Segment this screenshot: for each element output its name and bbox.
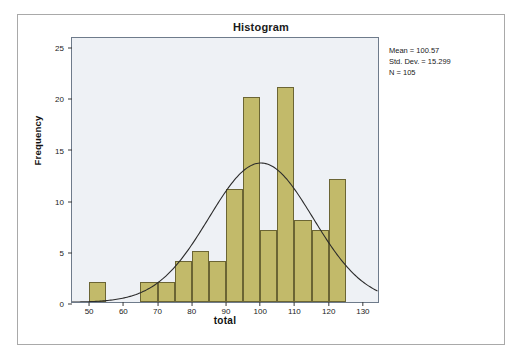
x-axis-tick-label: 120 [322,302,335,316]
stat-stddev: Std. Dev. = 15.299 [389,57,451,68]
y-axis-tick-label: 0 [60,300,72,309]
x-axis-tick-label: 80 [187,302,196,316]
chart-window: Histogram Frequency 0510152025 506070809… [17,14,505,345]
y-axis-tick-label: 15 [55,146,72,155]
histogram-bar [209,261,226,302]
x-axis-tick-label: 110 [288,302,301,316]
x-axis-tick-label: 130 [356,302,369,316]
histogram-bar [226,189,243,302]
histogram-bar [140,282,157,302]
histogram-bar [158,282,175,302]
y-axis-tick-label: 5 [60,248,72,257]
plot-area: 0510152025 5060708090100110120130 [71,37,379,303]
plot-inner: 0510152025 5060708090100110120130 [72,38,378,302]
y-axis-tick-label: 20 [55,95,72,104]
x-axis-tick-label: 90 [222,302,231,316]
histogram-bar [175,261,192,302]
y-axis-tick-label: 10 [55,197,72,206]
histogram-bar [260,230,277,302]
x-axis-tick-label: 60 [119,302,128,316]
histogram-bar [277,87,294,302]
histogram-bar [312,230,329,302]
stat-mean: Mean = 100.57 [389,46,451,57]
histogram-bar [294,220,311,302]
histogram-bar [192,251,209,302]
y-axis-tick-label: 25 [55,44,72,53]
x-axis-tick-label: 50 [85,302,94,316]
statistics-annotation: Mean = 100.57 Std. Dev. = 15.299 N = 105 [389,46,451,79]
histogram-bar [329,179,346,302]
x-axis-tick-label: 70 [153,302,162,316]
stat-n: N = 105 [389,68,451,79]
histogram-bar [89,282,106,302]
x-axis-title: total [71,315,379,326]
page-title: Histogram [18,21,504,33]
x-axis-tick-label: 100 [254,302,267,316]
histogram-bar [243,97,260,302]
y-axis-title: Frequency [32,91,43,191]
